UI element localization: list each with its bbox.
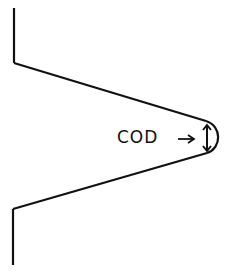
lower-crack-flank [13,153,207,209]
double-headed-arrow-icon [203,125,211,151]
pointer-arrow-icon [178,135,194,143]
cod-label: COD [117,127,158,147]
upper-crack-flank [14,63,206,121]
crack-profile-svg [0,0,228,273]
